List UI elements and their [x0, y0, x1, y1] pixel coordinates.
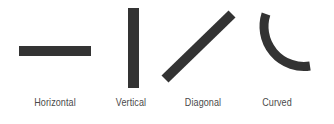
- label-vertical: Vertical: [97, 96, 166, 108]
- curved-line-icon: [264, 14, 310, 66]
- label-horizontal: Horizontal: [21, 96, 90, 108]
- horizontal-line-icon: [19, 46, 91, 56]
- vertical-line-icon: [128, 8, 139, 88]
- label-curved: Curved: [243, 96, 312, 108]
- diagonal-line-icon: [165, 14, 232, 79]
- label-diagonal: Diagonal: [169, 96, 238, 108]
